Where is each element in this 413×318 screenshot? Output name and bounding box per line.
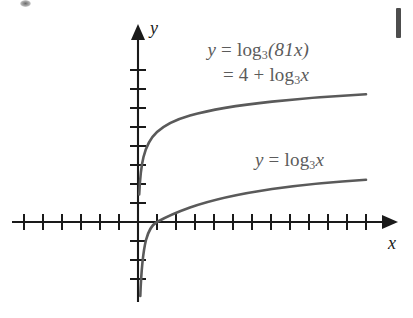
logarithm-graph-figure: y = log3(81x) = 4 + log3x y = log3x y x bbox=[0, 0, 413, 318]
annotation-upper-line1-fn: log bbox=[237, 39, 262, 60]
annotation-lower-arg: x bbox=[316, 149, 325, 170]
annotation-upper-line2-eq: = 4 + bbox=[223, 64, 269, 85]
annotation-lower-eq: = bbox=[264, 149, 285, 170]
annotation-upper-line2-arg: x bbox=[300, 64, 309, 85]
scan-artifact-right-edge bbox=[396, 8, 401, 38]
x-axis-arrowhead bbox=[382, 215, 398, 229]
annotation-upper-line2-fn: log bbox=[269, 64, 294, 85]
scan-artifact-top-left bbox=[20, 0, 31, 7]
annotation-upper-line1-eq: = bbox=[216, 39, 237, 60]
annotation-lower-curve: y = log3x bbox=[255, 148, 324, 173]
annotation-upper-line1-arg: (81x) bbox=[268, 39, 309, 60]
annotation-upper-line1-y: y bbox=[207, 39, 216, 60]
x-axis-label: x bbox=[388, 233, 396, 254]
annotation-lower-y: y bbox=[255, 149, 264, 170]
y-axis-arrowhead bbox=[131, 24, 145, 40]
curve-upper-log3-81x bbox=[139, 94, 366, 194]
annotation-upper-line1: y = log3(81x) bbox=[207, 39, 309, 60]
annotation-lower-fn: log bbox=[284, 149, 309, 170]
annotation-upper-curve: y = log3(81x) = 4 + log3x bbox=[205, 38, 309, 88]
annotation-upper-line2: = 4 + log3x bbox=[205, 63, 309, 88]
y-axis-label: y bbox=[150, 18, 158, 39]
curve-lower-log3x bbox=[140, 180, 366, 296]
